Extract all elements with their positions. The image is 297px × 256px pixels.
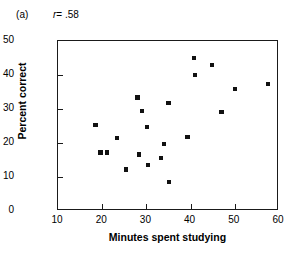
data-point [210,63,214,67]
y-axis-tick-label: 40 [0,68,14,79]
x-axis-tick-label: 10 [37,214,77,225]
y-axis-tick-label: 30 [0,102,14,113]
y-axis-tick-label: 50 [0,34,14,45]
data-point [145,125,149,129]
y-axis-tick [58,109,63,110]
x-axis-tick [235,204,236,209]
data-point [159,156,163,160]
data-point [219,110,223,114]
y-axis-title: Percent correct [16,41,28,161]
x-axis-tick [191,204,192,209]
x-axis-tick-label: 60 [258,214,297,225]
x-axis-title: Minutes spent studying [57,231,278,243]
x-axis-tick-label: 30 [125,214,165,225]
data-point [98,150,102,154]
data-point [93,123,97,127]
plot-frame [57,40,278,210]
data-point [167,180,171,184]
data-point [115,136,119,140]
y-axis-tick [58,143,63,144]
data-point [166,101,170,105]
data-point [140,109,144,113]
y-axis-tick-label: 20 [0,136,14,147]
scatter-plot-figure: (a) r= .58 Percent correct 01020304050 1… [0,0,297,256]
data-point [105,150,109,154]
data-point [193,73,197,77]
correlation-annotation: r= .58 [53,9,79,20]
x-axis-tick-label: 20 [81,214,121,225]
data-point [185,135,189,139]
y-axis-tick-label: 0 [0,204,14,215]
panel-letter-label: (a) [16,9,29,20]
data-point [146,163,150,167]
y-axis-tick [58,75,63,76]
x-axis-tick-label: 50 [214,214,254,225]
x-axis-tick-label: 40 [170,214,210,225]
y-axis-tick-label: 10 [0,170,14,181]
data-point [124,167,128,171]
x-axis-tick [102,204,103,209]
data-point [233,87,237,91]
y-axis-tick [58,177,63,178]
x-axis-tick [146,204,147,209]
data-point [192,56,196,60]
correlation-value: = .58 [56,9,79,20]
data-point [137,152,141,156]
data-point [266,82,270,86]
data-point [135,95,139,99]
figure-header: (a) r= .58 [0,0,297,32]
plot-area [58,41,277,209]
data-point [162,142,166,146]
